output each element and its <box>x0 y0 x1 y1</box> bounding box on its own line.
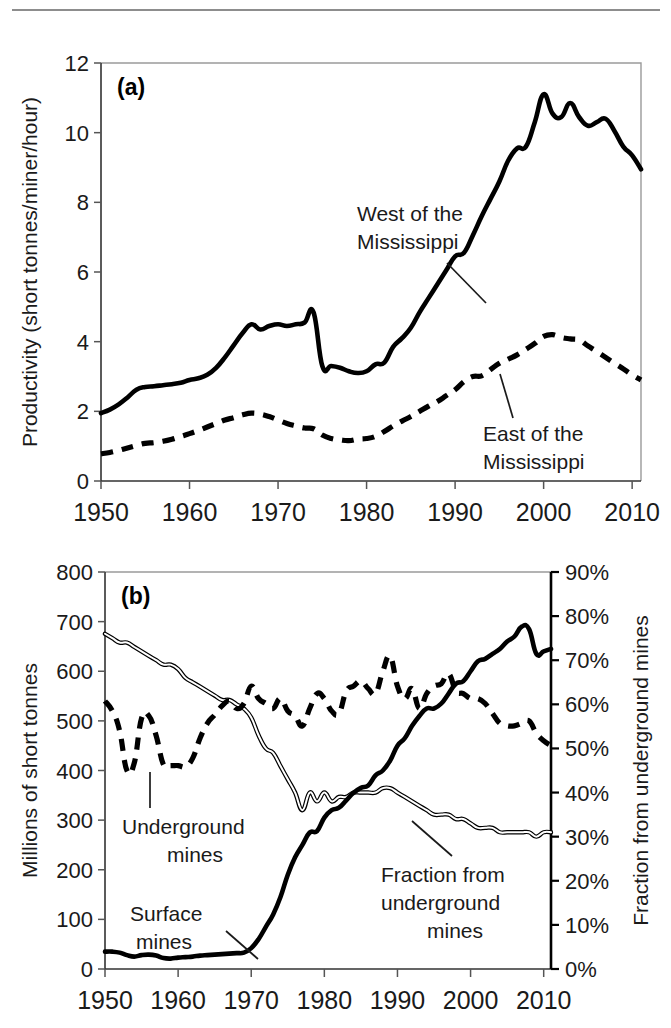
x-tick-label-a: 2010 <box>604 498 660 526</box>
x-tick-label-b: 2010 <box>516 986 572 1014</box>
x-tick-label-b: 1950 <box>77 986 133 1014</box>
annotation-underground-line1: Underground <box>122 815 245 838</box>
panel-label-b: (b) <box>121 583 150 609</box>
y-axis-title-left-b: Millions of short tonnes <box>18 663 41 878</box>
chart-panel-b: 01002003004005006007008000%10%20%30%40%5… <box>0 544 671 1028</box>
annotation-west-line2: Mississippi <box>357 230 459 253</box>
y-tick-label-a: 12 <box>65 51 89 76</box>
y-tick-label-left-b: 100 <box>56 907 93 932</box>
y-tick-label-right-b: 50% <box>565 736 609 761</box>
y-tick-label-a: 4 <box>77 330 89 355</box>
y-axis-title-a: Productivity (short tonnes/miner/hour) <box>18 97 41 447</box>
annotation-west-line1: West of the <box>357 202 463 225</box>
y-tick-label-left-b: 200 <box>56 858 93 883</box>
series-line-underground-mines <box>105 656 551 775</box>
y-tick-label-right-b: 40% <box>565 781 609 806</box>
production-line-chart: 01002003004005006007008000%10%20%30%40%5… <box>0 544 671 1028</box>
annotation-east-leader-line <box>500 374 513 418</box>
y-tick-label-a: 10 <box>65 121 89 146</box>
x-tick-label-a: 1990 <box>427 498 483 526</box>
y-tick-label-right-b: 60% <box>565 692 609 717</box>
series-line-west-of-mississippi <box>101 94 641 413</box>
x-tick-label-b: 1960 <box>150 986 206 1014</box>
x-tick-label-a: 1980 <box>339 498 395 526</box>
x-tick-label-a: 1960 <box>162 498 218 526</box>
panel-label-a: (a) <box>117 74 145 100</box>
y-tick-label-a: 8 <box>77 190 89 215</box>
series-line-fraction-underground-core <box>105 634 551 837</box>
y-tick-label-left-b: 600 <box>56 659 93 684</box>
annotation-surface-line2: mines <box>136 930 192 953</box>
annotation-fraction-line1: Fraction from <box>381 863 505 886</box>
y-tick-label-right-b: 0% <box>565 957 597 982</box>
y-tick-label-a: 2 <box>77 399 89 424</box>
annotation-fraction-leader-line <box>412 821 452 856</box>
annotation-west-leader-line <box>447 263 486 303</box>
y-tick-label-left-b: 700 <box>56 610 93 635</box>
x-tick-label-b: 1970 <box>223 986 279 1014</box>
y-tick-label-right-b: 30% <box>565 825 609 850</box>
plot-axes-a <box>101 63 641 481</box>
annotation-east-line1: East of the <box>483 422 583 445</box>
y-tick-label-right-b: 70% <box>565 648 609 673</box>
x-tick-label-b: 1990 <box>370 986 426 1014</box>
y-tick-label-left-b: 800 <box>56 560 93 585</box>
annotation-east-line2: Mississippi <box>483 450 585 473</box>
y-tick-label-right-b: 90% <box>565 560 609 585</box>
y-tick-label-left-b: 300 <box>56 808 93 833</box>
annotation-fraction-line3: mines <box>427 919 483 942</box>
y-tick-label-a: 0 <box>77 469 89 494</box>
plot-frame-a <box>101 63 641 481</box>
chart-panel-a: 0246810121950196019701980199020002010Pro… <box>0 28 671 540</box>
y-tick-label-right-b: 10% <box>565 913 609 938</box>
y-tick-label-a: 6 <box>77 260 89 285</box>
y-tick-label-right-b: 80% <box>565 604 609 629</box>
annotation-surface-line1: Surface <box>130 902 202 925</box>
y-tick-label-left-b: 400 <box>56 759 93 784</box>
y-tick-label-right-b: 20% <box>565 869 609 894</box>
annotation-fraction-line2: underground <box>381 891 500 914</box>
productivity-line-chart: 0246810121950196019701980199020002010Pro… <box>0 28 671 540</box>
y-tick-label-left-b: 500 <box>56 709 93 734</box>
y-axis-title-right-b: Fraction from underground mines <box>629 615 652 925</box>
x-tick-label-a: 1950 <box>73 498 129 526</box>
x-tick-label-b: 2000 <box>443 986 499 1014</box>
annotation-underground-line2: mines <box>167 843 223 866</box>
header-divider-rule <box>12 9 660 11</box>
y-tick-label-left-b: 0 <box>81 957 93 982</box>
x-tick-label-b: 1980 <box>297 986 353 1014</box>
x-tick-label-a: 1970 <box>250 498 306 526</box>
x-tick-label-a: 2000 <box>516 498 572 526</box>
